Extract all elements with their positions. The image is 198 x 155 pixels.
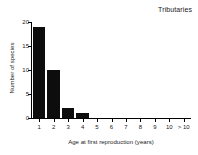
x-tick-label: 7 bbox=[124, 123, 127, 131]
x-tick-label: 3 bbox=[66, 123, 69, 131]
x-tick-mark bbox=[126, 119, 127, 122]
x-tick-mark bbox=[169, 119, 170, 122]
x-tick-mark bbox=[83, 119, 84, 122]
y-tick-label: 10 bbox=[22, 66, 29, 74]
x-tick-label: 6 bbox=[110, 123, 113, 131]
x-tick-mark bbox=[140, 119, 141, 122]
bar bbox=[62, 108, 74, 118]
bar bbox=[76, 113, 88, 118]
x-tick-mark bbox=[155, 119, 156, 122]
chart-title: Tributaries bbox=[158, 6, 192, 13]
x-tick-label: 10 bbox=[166, 123, 173, 131]
x-tick-mark bbox=[39, 119, 40, 122]
y-tick-label: 15 bbox=[22, 42, 29, 50]
x-tick-mark bbox=[54, 119, 55, 122]
x-axis-title: Age at first reproduction (years) bbox=[31, 139, 191, 145]
x-tick-label: 2 bbox=[52, 123, 55, 131]
x-tick-label: 4 bbox=[81, 123, 84, 131]
x-tick-label: 5 bbox=[95, 123, 98, 131]
y-tick-label: 20 bbox=[22, 18, 29, 26]
x-tick-mark bbox=[97, 119, 98, 122]
bars-layer bbox=[32, 22, 191, 118]
x-tick-mark bbox=[184, 119, 185, 122]
bar bbox=[47, 70, 59, 118]
x-tick-mark bbox=[112, 119, 113, 122]
chart-figure: Tributaries Number of species 05101520 1… bbox=[0, 0, 198, 155]
x-tick-label: > 10 bbox=[178, 123, 190, 131]
x-tick-label: 9 bbox=[153, 123, 156, 131]
x-tick-label: 1 bbox=[38, 123, 41, 131]
plot-area: 05101520 12345678910> 10 bbox=[31, 22, 191, 118]
x-tick-mark bbox=[68, 119, 69, 122]
x-tick-label: 8 bbox=[139, 123, 142, 131]
y-tick-label: 5 bbox=[26, 90, 29, 98]
y-tick-label: 0 bbox=[26, 114, 29, 122]
y-axis-title: Number of species bbox=[9, 24, 18, 112]
bar bbox=[33, 27, 45, 118]
